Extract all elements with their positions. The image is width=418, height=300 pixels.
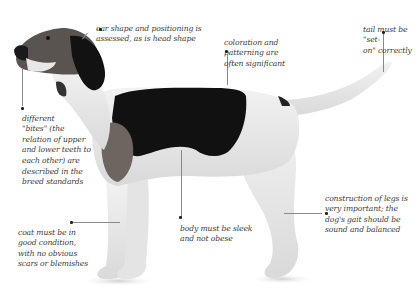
bullet-body xyxy=(179,216,182,219)
bullet-legs xyxy=(325,212,328,215)
leader-line-legs xyxy=(284,213,322,214)
bullet-coat xyxy=(70,221,73,224)
annotation-body-text: body must be sleek and not obese xyxy=(180,224,252,244)
leader-line-bites xyxy=(22,68,23,106)
annotation-bites: different "bites" (the relation of upper… xyxy=(22,103,91,188)
annotation-ear-shape: ear shape and positioning is assessed, a… xyxy=(96,13,202,45)
annotation-bites-text: different "bites" (the relation of upper… xyxy=(22,114,91,187)
annotation-coat: coat must be in good condition, with no … xyxy=(18,217,88,270)
annotation-tail: tail must be "set- on" correctly xyxy=(363,14,418,56)
bullet-ear xyxy=(99,28,102,31)
annotation-legs: construction of legs is very important; … xyxy=(325,183,408,236)
annotation-legs-text: construction of legs is very important; … xyxy=(325,194,408,235)
annotation-coat-text: coat must be in good condition, with no … xyxy=(18,228,88,269)
annotation-tail-text: tail must be "set- on" correctly xyxy=(363,25,412,55)
annotation-ear-shape-text: ear shape and positioning is assessed, a… xyxy=(96,24,202,44)
bullet-bites xyxy=(21,107,24,110)
leader-line-body xyxy=(181,150,182,217)
bullet-tail xyxy=(382,31,385,34)
annotation-body: body must be sleek and not obese xyxy=(180,213,252,245)
bullet-coloration xyxy=(225,50,228,53)
annotation-coloration-text: coloration and patterning are often sign… xyxy=(224,38,285,68)
annotated-dog-figure: ear shape and positioning is assessed, a… xyxy=(0,0,418,300)
annotation-coloration: coloration and patterning are often sign… xyxy=(224,27,285,69)
